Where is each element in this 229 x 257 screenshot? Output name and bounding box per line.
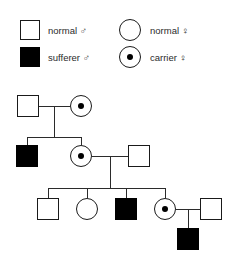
individual-III-2-normal-female [76, 198, 98, 220]
sibship-drop-II-2 [81, 137, 82, 145]
individual-III-4-carrier-female [154, 198, 176, 220]
sibship-drop-III-2 [87, 188, 88, 198]
carrier-dot-icon [162, 206, 168, 212]
legend: normal ♂ sufferer ♂ normal ♀ carrier ♀ [0, 0, 229, 80]
individual-III-1-normal-male [37, 198, 59, 220]
carrier-dot-icon [78, 153, 84, 159]
individual-IV-1-sufferer-male [177, 228, 199, 250]
sibship-bar-gen3 [48, 188, 165, 189]
descent-line-gen2 [110, 156, 111, 188]
individual-III-5-normal-male [200, 198, 222, 220]
legend-label-normal-female: normal ♀ [150, 26, 189, 36]
individual-II-1-sufferer-male [16, 145, 38, 167]
legend-symbol-normal-male [20, 20, 40, 40]
individual-III-3-sufferer-male [115, 198, 137, 220]
sibship-drop-III-4 [165, 188, 166, 198]
legend-symbol-carrier-female [119, 46, 141, 68]
descent-line-gen1 [54, 106, 55, 137]
individual-I-2-carrier-female [70, 95, 92, 117]
sibship-drop-III-3 [126, 188, 127, 198]
legend-label-carrier-female: carrier ♀ [150, 53, 187, 63]
pedigree-diagram [0, 80, 229, 257]
descent-line-gen3 [188, 209, 189, 228]
sibship-drop-III-1 [48, 188, 49, 198]
individual-II-3-normal-male [128, 145, 150, 167]
carrier-dot-icon [127, 54, 133, 60]
individual-II-2-carrier-female [70, 145, 92, 167]
legend-label-sufferer-male: sufferer ♂ [48, 53, 90, 63]
legend-symbol-normal-female [119, 19, 141, 41]
individual-I-1-normal-male [17, 95, 39, 117]
carrier-dot-icon [78, 103, 84, 109]
legend-symbol-sufferer-male [20, 47, 40, 67]
legend-label-normal-male: normal ♂ [48, 26, 87, 36]
sibship-bar-gen2 [27, 137, 81, 138]
pedigree-chart-page: normal ♂ sufferer ♂ normal ♀ carrier ♀ [0, 0, 229, 257]
sibship-drop-II-1 [27, 137, 28, 145]
